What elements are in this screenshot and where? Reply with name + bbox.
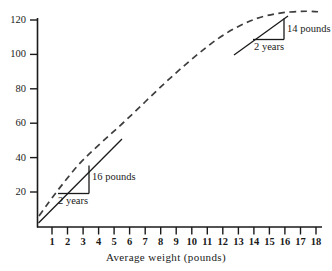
growth-curve-chart: 120 100 80 60 40 20 1 2 3 4 5 6 7 8 9 10… xyxy=(0,0,332,271)
y-tick-label-100: 100 xyxy=(0,49,26,60)
x-axis-ticks xyxy=(52,227,316,235)
y-tick-label-120: 120 xyxy=(0,15,26,26)
y-tick-label-40: 40 xyxy=(0,153,26,164)
y-tick-label-80: 80 xyxy=(0,84,26,95)
y-axis-ticks xyxy=(30,20,38,192)
x-tick-label-18: 18 xyxy=(306,237,326,248)
annotation-lower-rise: 16 pounds xyxy=(92,172,135,183)
annotation-lower-run: 2 years xyxy=(58,196,88,207)
y-tick-label-60: 60 xyxy=(0,118,26,129)
annotation-upper-run: 2 years xyxy=(254,42,284,53)
y-tick-label-20: 20 xyxy=(0,187,26,198)
annotation-upper-rise: 14 pounds xyxy=(287,24,330,35)
x-axis-title: Average weight (pounds) xyxy=(0,252,332,263)
